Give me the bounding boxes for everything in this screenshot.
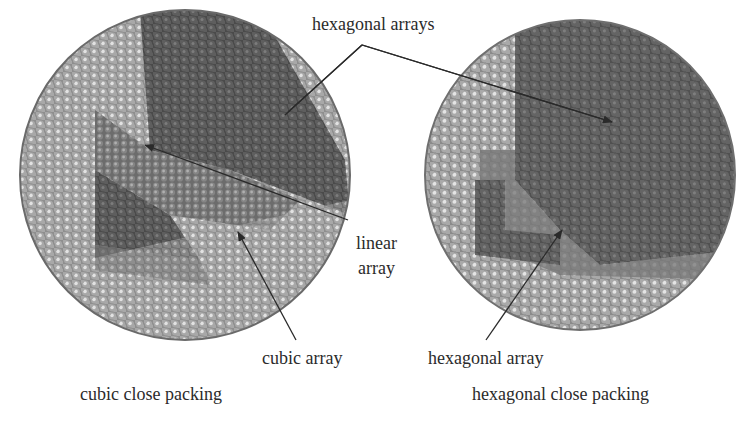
cubic-close-packing-caption: cubic close packing [80,384,222,404]
linear-array-label-line2: array [358,258,395,278]
cubic-array-label: cubic array [262,348,342,368]
hexagonal-close-packing-caption: hexagonal close packing [472,384,649,404]
hexagonal-arrays-label: hexagonal arrays [312,14,434,34]
crystal-packing-figure: hexagonal arrays linear array cubic arra… [0,0,744,427]
cubic-close-packing-sphere [20,10,350,340]
hexagonal-close-packing-sphere [425,20,740,330]
hexagonal-array-label: hexagonal array [428,348,543,368]
figure-graphics [0,0,744,427]
linear-array-label-line1: linear [356,233,397,253]
